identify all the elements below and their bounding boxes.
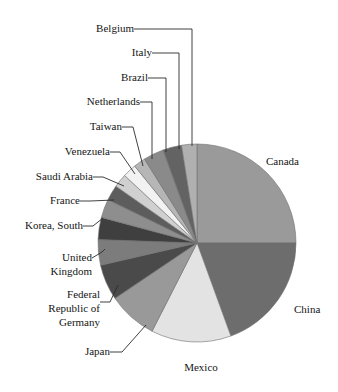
slice-label-taiwan: Taiwan	[40, 120, 122, 133]
slice-label-korea-south: Korea, South	[3, 219, 83, 232]
slice-label-france: France	[16, 194, 80, 207]
leader-line-japan	[110, 325, 146, 352]
slice-label-japan: Japan	[56, 345, 110, 358]
slice-label-belgium: Belgium	[48, 22, 134, 35]
slice-label-canada: Canada	[266, 155, 322, 168]
slice-label-mexico: Mexico	[168, 361, 234, 374]
pie-chart-figure: Belgium Italy Brazil Netherlands Taiwan …	[0, 0, 338, 392]
slice-label-china: China	[294, 303, 338, 316]
pie-slices-group	[98, 144, 296, 342]
slice-label-germany-line2: Republic of	[16, 302, 100, 315]
slice-label-netherlands: Netherlands	[46, 95, 140, 108]
slice-label-brazil: Brazil	[62, 71, 148, 84]
leader-line-brazil	[148, 78, 166, 152]
slice-label-italy: Italy	[66, 46, 152, 59]
slice-label-venezuela: Venezuela	[20, 145, 110, 158]
slice-label-saudi-arabia: Saudi Arabia	[3, 170, 93, 183]
slice-label-united-kingdom-line1: United	[22, 251, 92, 264]
slice-label-germany-line3: Germany	[26, 316, 100, 329]
slice-label-germany-line1: Federal	[26, 288, 100, 301]
slice-label-united-kingdom-line2: Kingdom	[16, 265, 92, 278]
leader-line-italy	[152, 53, 179, 149]
leader-line-netherlands	[140, 102, 152, 159]
